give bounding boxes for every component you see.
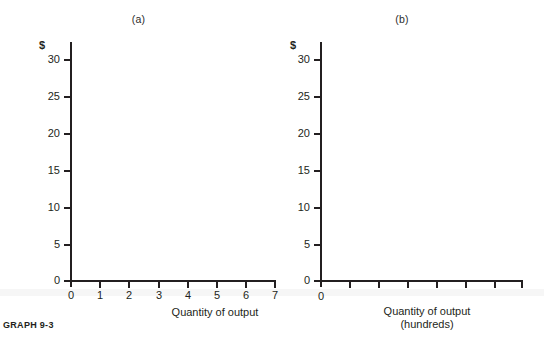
panel-b-x-tick-5 — [465, 282, 467, 288]
panel-a-x-label-1: 1 — [92, 290, 108, 301]
panel-a-x-label-5: 5 — [209, 290, 225, 301]
panel-a-y-label-10: 10 — [38, 202, 60, 213]
panel-b-y-label-10: 10 — [288, 202, 310, 213]
panel-b-x-tick-2 — [378, 282, 380, 288]
panel-a-y-tick-15 — [64, 170, 70, 172]
panel-a-y-tick-5 — [64, 244, 70, 246]
panel-a-y-label-0: 0 — [38, 275, 60, 286]
panel-a-x-label-2: 2 — [121, 290, 137, 301]
panel-b-y-tick-20 — [314, 133, 320, 135]
panel-a-y-tick-25 — [64, 96, 70, 98]
panel-b-y-tick-15 — [314, 170, 320, 172]
panel-a-y-label-5: 5 — [38, 239, 60, 250]
figure-label: GRAPH 9-3 — [3, 320, 54, 330]
panel-b-y-tick-10 — [314, 207, 320, 209]
panel-b-x-tick-3 — [407, 282, 409, 288]
panel-b-y-axis-unit: $ — [290, 40, 296, 51]
panel-a-x-label-6: 6 — [238, 290, 254, 301]
panel-b-plot-area — [322, 44, 523, 280]
panel-b-x-axis-title-line2: (hundreds) — [362, 318, 492, 331]
panel-a-y-tick-10 — [64, 207, 70, 209]
panel-b-y-label-30: 30 — [288, 54, 310, 65]
panel-a-x-label-3: 3 — [151, 290, 167, 301]
chart-panel-a: (a) $ 30 25 20 15 10 5 0 0 1 2 3 4 — [0, 0, 272, 346]
panel-a-x-tick-2 — [128, 282, 130, 288]
panel-a-x-axis-title: Quantity of output — [150, 306, 280, 319]
panel-b-x-tick-7 — [521, 282, 523, 288]
chart-panel-b: (b) $ 30 25 20 15 10 5 0 0 Quanti — [272, 0, 544, 346]
panel-b-y-label-20: 20 — [288, 128, 310, 139]
panel-b-y-label-15: 15 — [288, 165, 310, 176]
panel-a-x-tick-5 — [216, 282, 218, 288]
panel-a-y-axis-unit: $ — [39, 40, 45, 51]
panel-b-x-axis-title-line1: Quantity of output — [362, 305, 492, 318]
panel-a-y-label-30: 30 — [38, 54, 60, 65]
panel-a-y-tick-30 — [64, 59, 70, 61]
panel-b-x-tick-6 — [494, 282, 496, 288]
panel-b-caption: (b) — [302, 13, 502, 25]
panel-a-x-tick-4 — [187, 282, 189, 288]
panel-a-x-tick-3 — [158, 282, 160, 288]
panel-a-y-label-15: 15 — [38, 165, 60, 176]
panel-a-y-label-20: 20 — [38, 128, 60, 139]
graph-figure: (a) $ 30 25 20 15 10 5 0 0 1 2 3 4 — [0, 0, 544, 346]
panel-a-y-tick-20 — [64, 133, 70, 135]
panel-a-x-label-0: 0 — [63, 290, 79, 301]
panel-a-y-label-25: 25 — [38, 91, 60, 102]
panel-a-caption: (a) — [36, 13, 241, 25]
panel-b-y-tick-25 — [314, 96, 320, 98]
panel-b-y-label-5: 5 — [288, 239, 310, 250]
panel-b-y-label-25: 25 — [288, 91, 310, 102]
panel-b-x-label-0: 0 — [313, 291, 329, 302]
panel-a-x-tick-6 — [245, 282, 247, 288]
panel-b-y-tick-30 — [314, 59, 320, 61]
panel-b-x-tick-1 — [349, 282, 351, 288]
panel-b-y-label-0: 0 — [288, 275, 310, 286]
panel-b-x-tick-4 — [436, 282, 438, 288]
panel-a-x-label-4: 4 — [180, 290, 196, 301]
panel-a-x-tick-1 — [99, 282, 101, 288]
panel-a-plot-area — [72, 44, 276, 280]
panel-b-y-tick-5 — [314, 244, 320, 246]
